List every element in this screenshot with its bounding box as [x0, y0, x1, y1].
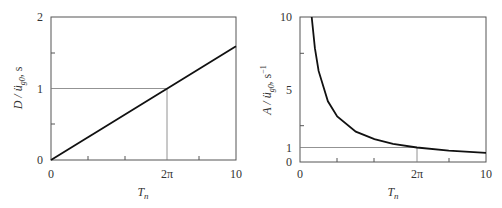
- right-y-tick-5: 5: [286, 83, 292, 97]
- left-y-tick-2: 2: [37, 10, 43, 24]
- right-x-axis-label: Tn: [387, 185, 399, 201]
- left-x-tick-10: 10: [230, 167, 242, 181]
- right-plot-frame: [300, 17, 486, 162]
- left-x-tick-0: 0: [48, 167, 54, 181]
- right-x-tick-0: 0: [297, 167, 303, 181]
- right-x-ticks: [337, 158, 449, 162]
- left-x-tick-2pi: 2π: [161, 167, 173, 181]
- right-y-tick-10: 10: [280, 10, 292, 24]
- right-plot: 0 1 5 10 0 2π 10 Tn A / üg0, s−1: [259, 10, 492, 201]
- right-x-tick-2pi: 2π: [411, 167, 423, 181]
- right-y-tick-1: 1: [286, 141, 292, 155]
- right-y-tick-0: 0: [286, 155, 292, 169]
- left-y-tick-0: 0: [37, 153, 43, 167]
- right-y-ticks: [300, 53, 304, 125]
- left-series-line: [51, 46, 236, 160]
- left-y-axis-label: D / üg0, s: [11, 66, 27, 110]
- figure: 0 1 2 0 2π 10 Tn D / üg0, s 0 1 5 10 0: [0, 0, 502, 208]
- left-x-axis-label: Tn: [137, 185, 149, 201]
- right-series-curve: [312, 17, 486, 153]
- left-x-ticks: [88, 156, 199, 160]
- right-x-tick-10: 10: [480, 167, 492, 181]
- right-y-axis-label: A / üg0, s−1: [259, 65, 276, 116]
- left-plot: 0 1 2 0 2π 10 Tn D / üg0, s: [11, 10, 242, 201]
- left-y-tick-1: 1: [37, 82, 43, 96]
